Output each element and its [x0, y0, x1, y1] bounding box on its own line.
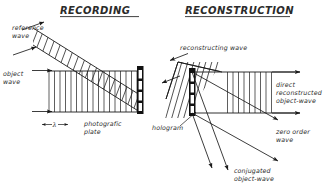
holography-diagram: RECORDING RECONSTRUCTION — [0, 0, 333, 190]
zero-order-ray-2 — [192, 113, 278, 161]
hologram-fringe-gap-3 — [191, 95, 194, 104]
wavelength-symbol: λ — [51, 121, 56, 129]
object-wave-label-line1: object — [3, 70, 24, 78]
hologram-fringe-gap-2 — [191, 84, 194, 93]
conjugated-label-line2: object-wave — [234, 175, 274, 183]
reconstructing-direction-arrow-bottom — [162, 76, 180, 83]
plate-fringe-gap-2 — [139, 81, 142, 90]
reconstructing-beam-top-boundary — [178, 62, 220, 72]
photografic-plate-label: photografic plate — [83, 120, 122, 136]
reconstructing-direction-arrow-top — [170, 54, 188, 61]
plate-fringe-gap-3 — [139, 92, 142, 101]
zero-order-label-line1: zero order — [275, 128, 310, 135]
plate-fringe-gap-1 — [139, 70, 142, 79]
plate-fringe-gap-4 — [139, 103, 142, 111]
hologram-fringe-gap-4 — [191, 106, 194, 113]
recording-title-text: RECORDING — [60, 5, 130, 16]
recording-title: RECORDING — [60, 5, 139, 17]
photografic-plate-label-line2: plate — [83, 128, 101, 136]
object-wavefronts — [49, 68, 137, 116]
reference-direction-arrow-bottom — [13, 47, 36, 55]
reconstructing-wave-label: reconstructing wave — [180, 44, 247, 52]
reference-wave-beam — [13, 22, 155, 124]
reference-wave-label-line2: wave — [12, 32, 29, 39]
object-wave-label: object wave — [3, 70, 24, 85]
zero-order-label-line2: wave — [276, 136, 293, 143]
direct-label-line3: object-wave — [276, 97, 316, 105]
photografic-plate-label-line1: photografic — [83, 120, 122, 128]
hologram-plate — [189, 68, 196, 116]
direct-label-line1: direct — [276, 81, 295, 88]
object-wave-label-line2: wave — [3, 78, 20, 85]
conjugated-ray-2 — [192, 113, 212, 168]
conjugated-object-wave-label: conjugated object-wave — [234, 167, 274, 183]
zero-order-wave-label: zero order wave — [275, 128, 310, 143]
reconstruction-panel: reconstructing wave hologram direct reco… — [152, 44, 323, 183]
reference-wave-label-line1: reference — [12, 24, 44, 31]
wavelength-marker: λ — [42, 121, 68, 129]
hologram-label: hologram — [152, 124, 183, 132]
direct-label-line2: reconstructed — [276, 89, 323, 96]
reconstruction-title: RECONSTRUCTION — [185, 5, 294, 17]
conjugated-label-line1: conjugated — [234, 167, 272, 175]
recording-panel: λ reference wave object wave photografic… — [3, 22, 155, 136]
reconstruction-title-text: RECONSTRUCTION — [185, 5, 294, 16]
conjugated-object-wave-rays — [192, 72, 228, 170]
conjugated-ray-1 — [192, 72, 228, 170]
photografic-plate — [137, 66, 144, 114]
direct-reconstructed-object-wave-label: direct reconstructed object-wave — [276, 81, 323, 105]
